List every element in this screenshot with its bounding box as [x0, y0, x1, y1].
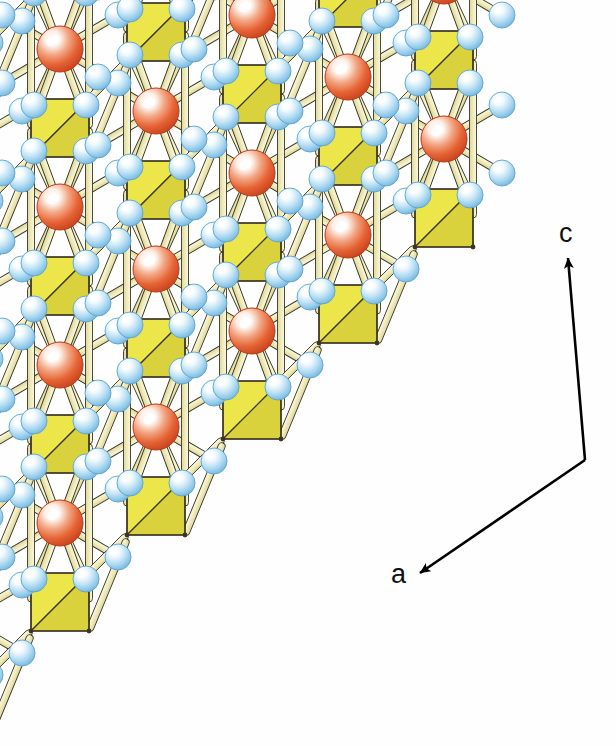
anion-sphere: [277, 30, 303, 56]
anion-body: [169, 0, 195, 22]
anion-sphere: [181, 352, 207, 378]
a-axis-arrow: [420, 460, 585, 573]
tetra-vertex: [375, 341, 380, 346]
anion-sphere: [181, 36, 207, 62]
cation-body: [37, 500, 83, 546]
anion-sphere: [265, 216, 291, 242]
anion-sphere: [117, 154, 143, 180]
anion-sphere: [265, 58, 291, 84]
anion-sphere: [213, 58, 239, 84]
anion-body: [213, 58, 239, 84]
anion-sphere: [373, 2, 399, 28]
anion-sphere: [277, 98, 303, 124]
tetra-vertex: [279, 437, 284, 442]
anion-body: [21, 408, 47, 434]
anion-sphere: [21, 250, 47, 276]
anion-body: [117, 200, 143, 226]
anion-sphere: [213, 262, 239, 288]
anion-sphere: [117, 42, 143, 68]
anion-sphere: [457, 70, 483, 96]
anion-body: [457, 182, 483, 208]
cation-sphere: [229, 308, 275, 354]
anion-body: [309, 166, 335, 192]
tetra-vertex: [29, 629, 34, 634]
anion-sphere: [85, 448, 111, 474]
anion-sphere: [117, 312, 143, 338]
anion-body: [117, 358, 143, 384]
anion-sphere: [21, 454, 47, 480]
cation-body: [133, 404, 179, 450]
anion-sphere: [405, 24, 431, 50]
cation-sphere: [325, 54, 371, 100]
anion-sphere: [405, 182, 431, 208]
anion-sphere: [169, 0, 195, 22]
anion-body: [297, 352, 323, 378]
cation-sphere: [229, 150, 275, 196]
anion-body: [21, 454, 47, 480]
cation-sphere: [229, 0, 275, 38]
anion-sphere: [21, 566, 47, 592]
anion-body: [489, 160, 515, 186]
anion-sphere: [21, 92, 47, 118]
cation-body: [229, 150, 275, 196]
anion-body: [117, 0, 143, 22]
anion-body: [405, 182, 431, 208]
cation-body: [37, 26, 83, 72]
anion-body: [85, 132, 111, 158]
anion-body: [9, 640, 35, 666]
anion-body: [85, 290, 111, 316]
anion-body: [21, 566, 47, 592]
axis-indicator: [420, 258, 585, 573]
anion-body: [181, 284, 207, 310]
c-axis-arrow: [568, 258, 585, 460]
cation-body: [37, 184, 83, 230]
anion-sphere: [169, 312, 195, 338]
anion-body: [265, 374, 291, 400]
anion-sphere: [181, 284, 207, 310]
crystal-structure-illustration: [0, 0, 616, 746]
anion-sphere: [117, 470, 143, 496]
cation-body: [421, 0, 467, 4]
anion-sphere: [169, 154, 195, 180]
anion-body: [73, 566, 99, 592]
anion-body: [373, 92, 399, 118]
tetra-vertex: [183, 533, 188, 538]
anion-sphere: [213, 374, 239, 400]
cation-body: [229, 308, 275, 354]
anion-body: [117, 470, 143, 496]
anion-sphere: [85, 132, 111, 158]
anion-body: [309, 278, 335, 304]
cation-body: [325, 212, 371, 258]
anion-body: [213, 374, 239, 400]
cation-body: [133, 88, 179, 134]
anion-sphere: [309, 166, 335, 192]
anion-body: [265, 58, 291, 84]
anion-sphere: [169, 470, 195, 496]
cation-body: [421, 116, 467, 162]
anion-sphere: [277, 188, 303, 214]
cation-body: [325, 54, 371, 100]
anion-body: [361, 120, 387, 146]
anion-body: [85, 448, 111, 474]
figure-canvas: c a: [0, 0, 616, 746]
anion-sphere: [277, 256, 303, 282]
anion-body: [169, 470, 195, 496]
anion-body: [21, 296, 47, 322]
anion-sphere: [457, 182, 483, 208]
cation-body: [229, 0, 275, 38]
anion-sphere: [73, 250, 99, 276]
tetra-vertex: [413, 245, 418, 250]
anion-body: [277, 98, 303, 124]
anion-sphere: [73, 408, 99, 434]
anion-sphere: [181, 194, 207, 220]
anion-body: [457, 70, 483, 96]
cation-sphere: [37, 184, 83, 230]
anion-sphere: [213, 216, 239, 242]
anion-sphere: [21, 408, 47, 434]
anion-body: [21, 138, 47, 164]
anion-sphere: [9, 640, 35, 666]
cation-sphere: [421, 0, 467, 4]
anion-body: [21, 92, 47, 118]
cation-sphere: [133, 404, 179, 450]
anion-sphere: [309, 278, 335, 304]
